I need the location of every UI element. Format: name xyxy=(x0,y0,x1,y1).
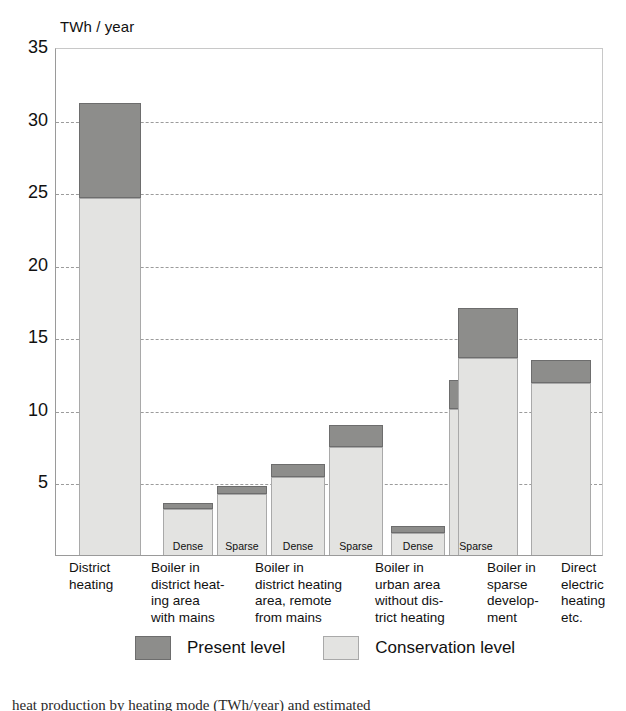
x-axis-group-label: District heating xyxy=(69,560,147,593)
bar-segment-present-level xyxy=(271,464,325,477)
plot-area: DenseSparseDenseSparseDenseSparse xyxy=(55,48,603,556)
bar-segment-present-level xyxy=(391,526,445,533)
x-axis-labels: District heatingBoiler in district heat-… xyxy=(55,560,603,636)
bar: Dense xyxy=(391,526,445,555)
legend-swatch-conservation-level xyxy=(323,636,359,660)
legend-swatch-present-level xyxy=(135,636,171,660)
bar-segment-present-level xyxy=(79,103,141,198)
bar-sublabel: Sparse xyxy=(217,541,267,552)
y-axis-tick-label: 5 xyxy=(6,472,48,493)
bar-segment-present-level xyxy=(163,503,213,509)
y-axis-title: TWh / year xyxy=(60,18,134,35)
bar: Sparse xyxy=(329,425,383,555)
bar-segment-present-level xyxy=(458,308,518,359)
bar: Dense xyxy=(163,503,213,555)
bar-segment-conservation-level xyxy=(329,447,383,555)
bar xyxy=(531,360,591,555)
bar-segment-conservation-level xyxy=(458,358,518,555)
legend-item: Conservation level xyxy=(323,636,515,660)
x-axis-group-label: Direct electric heating etc. xyxy=(561,560,623,626)
x-axis-group-label: Boiler in sparse develop- ment xyxy=(487,560,557,626)
legend-item: Present level xyxy=(135,636,285,660)
y-axis-tick-label: 30 xyxy=(6,110,48,131)
y-axis-tick-label: 20 xyxy=(6,255,48,276)
figure-caption: heat production by heating mode (TWh/yea… xyxy=(12,697,612,711)
bar xyxy=(79,103,141,556)
bar-sublabel: Dense xyxy=(163,541,213,552)
legend-label: Present level xyxy=(187,638,285,658)
x-axis-group-label: Boiler in urban area without dis- trict … xyxy=(375,560,487,626)
bar-series: DenseSparseDenseSparseDenseSparse xyxy=(56,49,602,555)
chart-legend: Present levelConservation level xyxy=(135,636,553,660)
bar-segment-present-level xyxy=(531,360,591,383)
bar-sublabel: Dense xyxy=(391,541,445,552)
x-axis-group-label: Boiler in district heat- ing area with m… xyxy=(151,560,255,626)
y-axis-tick-label: 15 xyxy=(6,327,48,348)
y-axis-tick-label: 35 xyxy=(6,37,48,58)
bar: Dense xyxy=(271,464,325,555)
legend-label: Conservation level xyxy=(375,638,515,658)
bar-segment-conservation-level xyxy=(531,383,591,555)
bar-sublabel: Sparse xyxy=(329,541,383,552)
bar-segment-present-level xyxy=(329,425,383,447)
bar-segment-conservation-level xyxy=(79,198,141,555)
bar xyxy=(458,308,518,555)
bar-sublabel: Dense xyxy=(271,541,325,552)
bar-sublabel: Sparse xyxy=(449,541,503,552)
bar: Sparse xyxy=(217,486,267,555)
bar-segment-present-level xyxy=(217,486,267,495)
chart-figure: TWh / year DenseSparseDenseSparseDenseSp… xyxy=(0,0,626,711)
x-axis-group-label: Boiler in district heating area, remote … xyxy=(255,560,377,626)
y-axis-tick-label: 10 xyxy=(6,400,48,421)
y-axis-tick-label: 25 xyxy=(6,182,48,203)
